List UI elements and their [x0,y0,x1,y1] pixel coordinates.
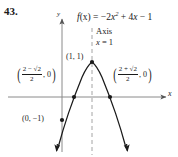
point-right-x-intercept [108,95,112,99]
left-fraction: 2 − √2 2 [22,66,42,83]
x-axis-label: x [168,90,172,98]
vertex-point-label: (1, 1) [66,53,83,61]
equation-term2: + 4 [118,12,133,22]
right-fraction-denominator: 2 [126,76,130,83]
problem-number: 43. [4,6,18,17]
left-coord-tail: , 0 [42,70,51,79]
left-paren-open: ( [17,66,20,83]
equation-arg: (x) = [80,12,101,22]
axis-annotation-word: Axis [96,27,112,36]
function-equation: f(x) = −2x2 + 4x − 1 [77,11,152,23]
left-paren-close: ) [52,66,55,83]
axis-annotation-equation: x = 1 [96,38,113,47]
left-x-intercept-label: ( 2 − √2 2 , 0 ) [16,66,57,83]
y-axis-label: y [57,11,60,18]
curve-left-arrow [57,144,58,151]
right-paren-open: ( [113,66,116,83]
right-coord-tail: , 0 [138,70,147,79]
right-paren-close: ) [148,66,151,83]
right-fraction: 2 + √2 2 [118,66,138,83]
left-fraction-numerator: 2 − √2 [22,66,42,73]
equation-term1-sign: −2 [101,12,111,22]
point-vertex [90,60,94,64]
curve-right-arrow [127,144,128,151]
point-left-x-intercept [72,95,76,99]
axis-eq-rest: = 1 [100,37,113,47]
right-x-intercept-label: ( 2 + √2 2 , 0 ) [112,66,153,83]
right-fraction-numerator: 2 + √2 [118,66,138,73]
y-intercept-point-label: (0, −1) [22,115,44,123]
equation-term3: − 1 [137,12,152,22]
left-fraction-denominator: 2 [30,76,34,83]
point-y-intercept [60,118,64,122]
